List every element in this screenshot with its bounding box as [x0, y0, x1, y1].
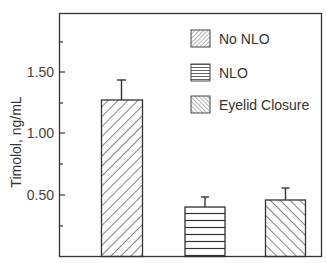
- legend-label: No NLO: [219, 31, 270, 47]
- legend-item-nlo: NLO: [191, 64, 248, 81]
- bar-eyelid-closure: [266, 188, 306, 257]
- bar-nlo: [185, 197, 225, 257]
- legend-swatch-backward-hatch-icon: [191, 96, 210, 113]
- y-axis-label: Timolol, ng/mL: [8, 96, 24, 188]
- bar-chart: 0.50 1.00 1.50 Timolol, ng/mL No NLO: [0, 0, 327, 263]
- legend-swatch-horizontal-hatch-icon: [191, 64, 210, 81]
- y-axis: 0.50 1.00 1.50 Timolol, ng/mL: [8, 42, 65, 226]
- y-tick-label: 1.50: [27, 64, 54, 80]
- legend-label: NLO: [219, 65, 248, 81]
- y-tick-label: 1.00: [27, 125, 54, 141]
- legend: No NLO NLO Eyelid Closure: [191, 30, 309, 113]
- legend-item-eyelid-closure: Eyelid Closure: [191, 96, 309, 113]
- legend-item-no-nlo: No NLO: [191, 30, 270, 47]
- bar-no-nlo: [102, 80, 143, 257]
- legend-label: Eyelid Closure: [219, 97, 309, 113]
- legend-swatch-forward-hatch-icon: [191, 30, 210, 47]
- y-tick-label: 0.50: [27, 187, 54, 203]
